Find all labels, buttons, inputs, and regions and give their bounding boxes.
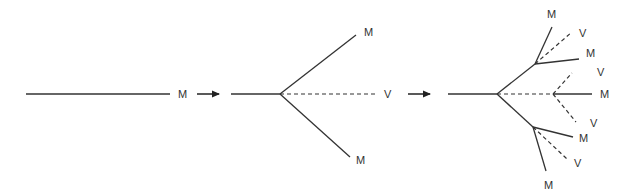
label-m: M xyxy=(544,179,553,191)
label-m: M xyxy=(586,47,595,59)
diagram-canvas: M M V M M V M V M V M xyxy=(0,0,632,195)
branch-m-upper xyxy=(497,64,535,94)
label-v: V xyxy=(574,157,582,169)
branching-diagram: M M V M M V M V M V M xyxy=(0,0,632,195)
branch-m-upper xyxy=(280,35,356,94)
stage-1: M xyxy=(26,88,187,100)
label-m: M xyxy=(600,88,609,100)
stage-3: M V M V M V M V M xyxy=(448,8,609,191)
branch-m-lower xyxy=(497,94,533,127)
label-m: M xyxy=(547,8,556,20)
branch-m-upper-2 xyxy=(535,59,579,64)
label-m: M xyxy=(178,88,187,100)
branch-m-lower xyxy=(280,94,350,157)
label-v: V xyxy=(384,88,392,100)
label-m: M xyxy=(579,132,588,144)
label-v: V xyxy=(597,66,605,78)
stage-2: M V M xyxy=(231,26,392,166)
label-m: M xyxy=(356,154,365,166)
branch-v-top xyxy=(535,32,572,64)
label-v: V xyxy=(579,27,587,39)
label-v: V xyxy=(590,117,598,129)
branch-v-upper xyxy=(553,73,572,94)
branch-m-top xyxy=(535,27,552,64)
branch-v-lower xyxy=(553,94,576,122)
label-m: M xyxy=(364,26,373,38)
